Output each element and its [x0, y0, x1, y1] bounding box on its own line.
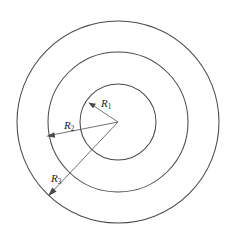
- label-r3: R3: [50, 172, 62, 186]
- radius-line-r3: [52, 122, 119, 193]
- arrow-head-r2: [46, 132, 55, 138]
- diagram-canvas: R1 R2 R3: [0, 0, 241, 245]
- concentric-circles-diagram: R1 R2 R3: [0, 0, 241, 245]
- label-r3-subscript: 3: [58, 178, 62, 186]
- arrow-head-r1: [88, 102, 96, 108]
- label-r1-subscript: 1: [108, 103, 112, 111]
- label-r2-subscript: 2: [71, 125, 75, 133]
- label-r2: R2: [63, 119, 75, 133]
- label-r1: R1: [100, 97, 112, 111]
